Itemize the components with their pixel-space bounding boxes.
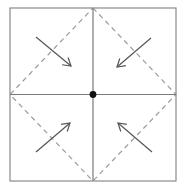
center-point-dot [90, 91, 97, 98]
geometry-figure [0, 0, 185, 187]
figure-canvas [0, 0, 185, 187]
